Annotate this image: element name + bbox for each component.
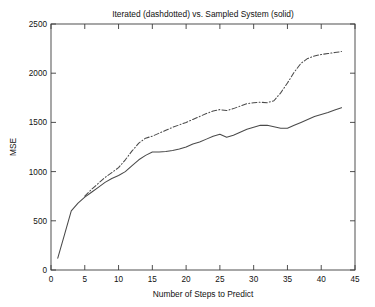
x-tick-label: 5 [82, 275, 87, 284]
figure-container: 05001000150020002500 051015202530354045 … [0, 0, 375, 307]
x-tick-label: 25 [215, 275, 225, 284]
x-tick-label: 35 [283, 275, 293, 284]
x-axis-label: Number of Steps to Predict [153, 289, 254, 299]
x-tick-label: 15 [148, 275, 158, 284]
x-tick-label: 40 [317, 275, 327, 284]
x-tick-label: 10 [114, 275, 124, 284]
y-tick-label: 0 [42, 266, 47, 275]
x-axis-ticks: 051015202530354045 [49, 24, 360, 284]
x-tick-label: 20 [182, 275, 192, 284]
series-sampled-system-solid [58, 108, 342, 259]
y-tick-label: 2000 [29, 69, 48, 78]
mse-line-chart: 05001000150020002500 051015202530354045 … [0, 0, 375, 307]
data-series-group [58, 52, 342, 259]
y-tick-label: 1000 [29, 168, 48, 177]
plot-frame [51, 24, 355, 270]
x-tick-label: 30 [249, 275, 259, 284]
y-tick-label: 500 [33, 217, 47, 226]
chart-title: Iterated (dashdotted) vs. Sampled System… [112, 9, 294, 19]
y-tick-label: 2500 [29, 20, 48, 29]
x-tick-label: 45 [350, 275, 360, 284]
y-axis-ticks: 05001000150020002500 [29, 20, 355, 275]
x-tick-label: 0 [49, 275, 54, 284]
y-tick-label: 1500 [29, 118, 48, 127]
y-axis-label: MSE [8, 138, 18, 157]
series-iterated-dashdotted [85, 52, 342, 197]
plot-box-border [51, 24, 355, 270]
